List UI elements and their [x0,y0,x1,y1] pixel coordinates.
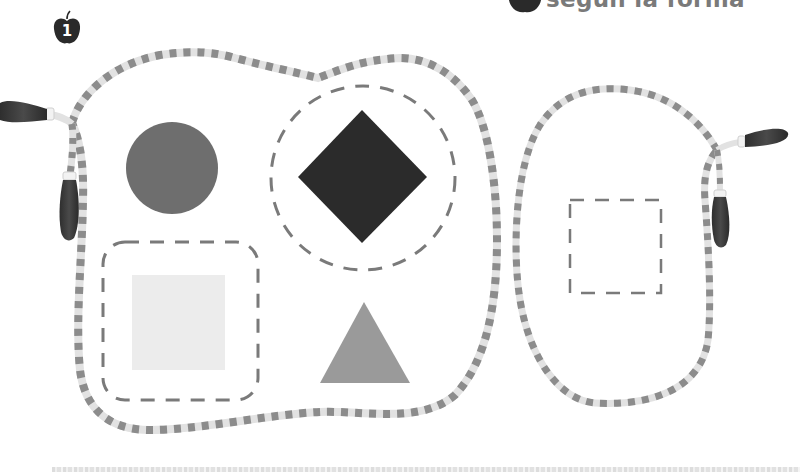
handle-collar [738,136,745,147]
diamond-shape [298,110,427,243]
rope-handle [60,180,79,240]
rope-handle [745,129,788,147]
triangle-shape [320,302,410,383]
handle-collar [63,172,76,180]
right-jump-rope [516,89,788,404]
rope-handle [712,197,730,247]
circle-shape [126,122,218,214]
rope-handle [0,101,47,122]
handle-collar [46,108,54,120]
left-jump-rope [0,52,497,430]
square-shape [132,275,225,370]
footer-strip [52,467,800,472]
handle-collar [714,190,726,197]
dashed-square-outline [570,200,661,293]
